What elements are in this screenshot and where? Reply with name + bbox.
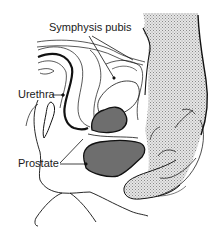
symphysis-pubis-label: Symphysis pubis (49, 22, 132, 33)
prostate-label: Prostate (18, 158, 59, 169)
urethra-label: Urethra (18, 89, 55, 100)
symphysis-pubis (37, 40, 145, 120)
prostate (84, 107, 145, 176)
anatomy-diagram (0, 0, 219, 230)
examining-finger (124, 13, 207, 199)
urethra (26, 47, 148, 226)
